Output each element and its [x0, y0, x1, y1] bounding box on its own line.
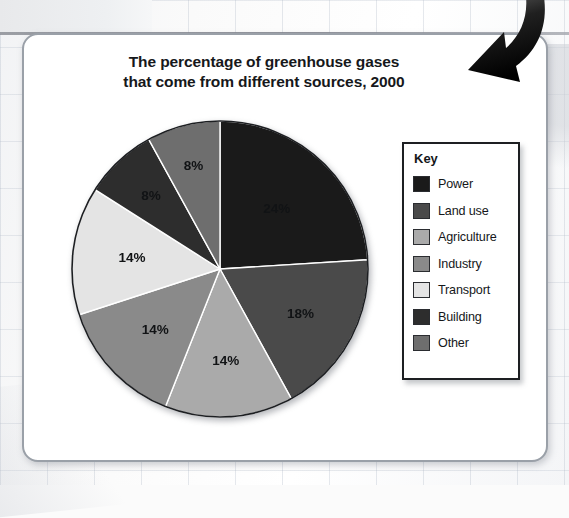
curved-down-left-arrow-icon [458, 0, 558, 102]
legend-item-power: Power [413, 171, 518, 198]
legend-item-agriculture: Agriculture [413, 224, 518, 251]
pie-slice-label-building: 8% [141, 188, 161, 203]
page-edge-shadow-left [0, 0, 152, 34]
legend-title: Key [414, 151, 518, 166]
legend-swatch-icon [413, 203, 430, 219]
legend-item-label: Agriculture [438, 230, 497, 244]
pie-slice-label-agriculture: 14% [212, 353, 239, 368]
page-title: The percentage of greenhouse gases that … [54, 52, 474, 93]
chart-title-line-2: that come from different sources, 2000 [54, 72, 474, 92]
chart-title-line-1: The percentage of greenhouse gases [54, 52, 474, 72]
pie-slice-label-power: 24% [263, 201, 290, 216]
legend-item-other: Other [413, 330, 518, 357]
arrow-svg [458, 0, 558, 102]
legend-swatch-icon [413, 309, 430, 325]
legend-item-label: Building [438, 310, 482, 324]
legend-item-building: Building [413, 304, 518, 331]
legend-box: Key PowerLand useAgricultureIndustryTran… [402, 142, 520, 380]
pie-slice-power [220, 121, 368, 269]
legend-item-industry: Industry [413, 251, 518, 278]
pie-slice-label-industry: 14% [142, 322, 169, 337]
legend-item-label: Other [438, 336, 469, 350]
legend-item-label: Transport [438, 283, 490, 297]
pie-slice-label-transport: 14% [118, 250, 145, 265]
legend-swatch-icon [413, 256, 430, 272]
legend-item-label: Industry [438, 257, 482, 271]
legend-swatch-icon [413, 282, 430, 298]
legend-rows: PowerLand useAgricultureIndustryTranspor… [413, 171, 518, 357]
arrow-shape [468, 0, 545, 82]
legend-swatch-icon [413, 335, 430, 351]
legend-item-transport: Transport [413, 277, 518, 304]
legend-swatch-icon [413, 176, 430, 192]
legend-swatch-icon [413, 229, 430, 245]
legend-item-label: Power [438, 177, 473, 191]
pie-chart-svg: 24%18%14%14%14%8%8% [70, 119, 370, 419]
pie-slice-label-other: 8% [184, 158, 204, 173]
pie-chart: 24%18%14%14%14%8%8% [70, 119, 370, 419]
legend-item-label: Land use [438, 204, 489, 218]
legend-item-land-use: Land use [413, 198, 518, 225]
pie-slice-label-land-use: 18% [287, 306, 314, 321]
pie-slice-group [72, 121, 368, 417]
